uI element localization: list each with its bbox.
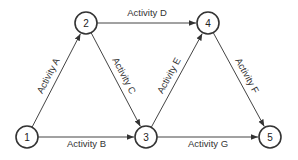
edge-label: Activity B [67,138,106,149]
edge-label: Activity C [110,55,138,95]
node-1: 1 [16,126,38,148]
edge-label: Activity E [154,56,182,96]
node-5: 5 [259,126,281,148]
node-label: 1 [24,132,30,143]
node-2: 2 [75,12,97,34]
node-3: 3 [135,126,157,148]
edge-label: Activity G [188,138,228,149]
node-4: 4 [197,12,219,34]
node-label: 2 [83,18,89,29]
node-label: 5 [267,132,273,143]
node-label: 3 [143,132,149,143]
edge-label: Activity D [127,7,167,18]
edge-label: Activity A [34,55,62,95]
node-label: 4 [205,18,211,29]
edge-label: Activity F [233,56,261,95]
activity-network-diagram: Activity AActivity BActivity CActivity D… [0,0,298,160]
